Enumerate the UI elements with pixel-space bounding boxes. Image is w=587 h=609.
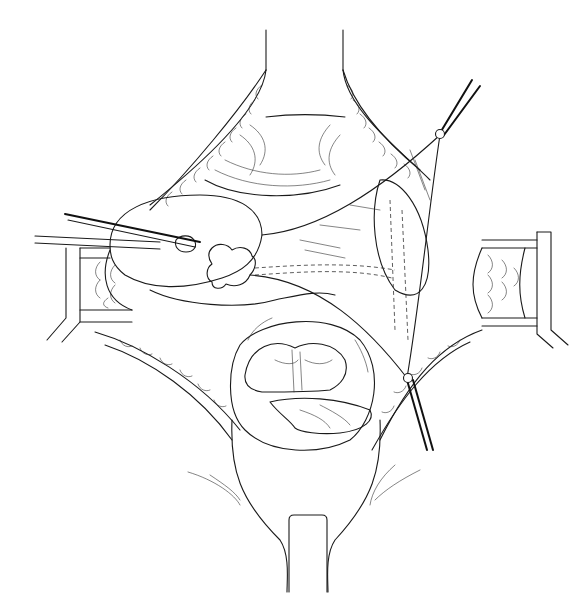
surgical-illustration (0, 0, 587, 609)
bowel-loops (230, 318, 374, 450)
suture-clamp-upper (436, 80, 481, 139)
suture-clamp-lower (404, 374, 434, 451)
dome-tissue (205, 115, 345, 196)
broad-ligament-leaf (250, 135, 440, 378)
left-retractor (47, 248, 132, 342)
lower-left-tissue (95, 332, 240, 440)
lower-retractor (188, 420, 420, 592)
uterus-fundus (110, 195, 335, 305)
right-retractor (473, 232, 568, 348)
upper-retractor (150, 30, 430, 210)
